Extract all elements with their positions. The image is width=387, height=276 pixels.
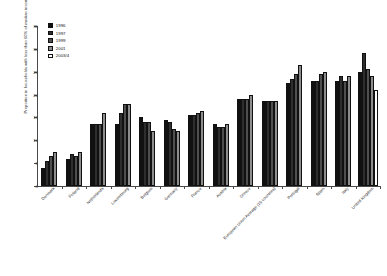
y-tick-label: 25 [22, 70, 38, 75]
bar-group [335, 76, 351, 186]
legend-item: 2001 [48, 46, 69, 51]
chart-legend: 19961997199920012003/4 [48, 23, 69, 58]
plot-area: 05101520253035 [37, 26, 380, 186]
legend-swatch-icon [48, 46, 53, 51]
y-tick-label: 10 [22, 138, 38, 143]
y-tick-label: 20 [22, 92, 38, 97]
cropped-header-strip [0, 0, 387, 14]
bar [249, 95, 253, 186]
bar [374, 90, 378, 186]
bar-group [286, 65, 302, 186]
legend-label: 1996 [56, 23, 66, 28]
bar [323, 72, 327, 186]
bar-group [41, 152, 57, 186]
bar [127, 104, 131, 186]
x-tick [380, 186, 381, 189]
bar-group [188, 111, 204, 186]
bar-group [262, 101, 278, 186]
x-axis-labels: DenmarkFinlandNetherlandsLuxembourgBelgi… [37, 186, 380, 272]
bar-group [66, 152, 82, 186]
legend-swatch-icon [48, 54, 53, 59]
y-axis-title: Proportion in households with less than … [23, 0, 28, 129]
bar-group [213, 124, 229, 186]
legend-swatch-icon [48, 31, 53, 36]
y-tick-label: 15 [22, 115, 38, 120]
y-tick-label: 35 [22, 24, 38, 29]
bar [102, 113, 106, 186]
x-axis-label: Portugal [286, 186, 300, 200]
legend-item: 1997 [48, 31, 69, 36]
x-axis-label: Denmark [41, 186, 56, 201]
x-axis-label: Netherlands [86, 186, 105, 205]
bar [53, 152, 57, 186]
x-axis-label: Germany [163, 186, 178, 201]
bar-group [139, 117, 155, 186]
bar [298, 65, 302, 186]
bar [176, 131, 180, 186]
x-axis-label: Greece [239, 186, 252, 199]
legend-swatch-icon [48, 38, 53, 43]
bar [274, 101, 278, 186]
legend-item: 1999 [48, 38, 69, 43]
bar [78, 152, 82, 186]
legend-swatch-icon [48, 23, 53, 28]
legend-label: 1997 [56, 31, 66, 36]
x-axis-label: Belgium [140, 186, 154, 200]
bar-group [358, 53, 379, 186]
bar [347, 76, 351, 186]
bar [200, 111, 204, 186]
bar [151, 131, 155, 186]
legend-item: 2003/4 [48, 53, 69, 58]
x-axis-label: Austria [215, 186, 228, 199]
y-tick-label: 0 [22, 184, 38, 189]
x-axis-label: Italy [341, 186, 350, 195]
x-axis-label: Luxembourg [110, 186, 130, 206]
legend-label: 2003/4 [56, 53, 69, 58]
bar-group [115, 104, 131, 186]
y-tick-label: 30 [22, 47, 38, 52]
legend-label: 1999 [56, 38, 66, 43]
x-axis-label: Finland [67, 186, 80, 199]
x-axis-label: Spain [314, 186, 325, 197]
legend-item: 1996 [48, 23, 69, 28]
bar-group [237, 95, 253, 186]
x-axis-label: European Union Average (15 countries) [222, 186, 276, 240]
chart-container: Proportion in households with less than … [0, 0, 387, 276]
x-axis-label: France [190, 186, 203, 199]
bar-group [311, 72, 327, 186]
bar [225, 124, 229, 186]
legend-label: 2001 [56, 46, 66, 51]
y-tick-label: 5 [22, 161, 38, 166]
bar-group [90, 113, 106, 186]
bar-group [164, 120, 180, 186]
x-axis-label: United Kingdom [350, 186, 374, 210]
